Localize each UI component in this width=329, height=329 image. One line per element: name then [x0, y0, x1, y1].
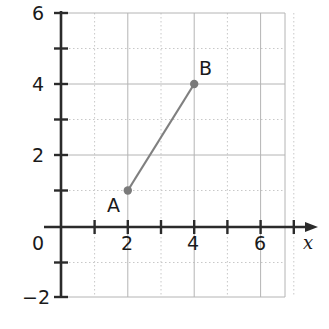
x-axis-name-label: x: [303, 234, 313, 252]
coordinate-plane-figure: 6 4 2 0 −2 2 4 6 x A B: [0, 0, 329, 329]
y-tick-label-minus-2: −2: [22, 288, 50, 307]
segment-ab: [128, 84, 194, 191]
y-tick-label-2: 2: [32, 146, 44, 165]
y-tick-label-0: 0: [32, 234, 44, 253]
x-tick-label-4: 4: [187, 234, 199, 253]
data-point-b-label: B: [199, 59, 212, 78]
y-tick-label-6: 6: [32, 4, 44, 23]
y-tick-label-4: 4: [32, 75, 44, 94]
data-point-a-marker[interactable]: [124, 186, 132, 194]
x-axis-arrow-icon: [305, 222, 318, 232]
x-tick-label-2: 2: [121, 234, 133, 253]
x-tick-label-6: 6: [254, 234, 266, 253]
data-point-b-marker[interactable]: [190, 80, 198, 88]
data-point-a-label: A: [107, 196, 120, 215]
plot-canvas: [0, 0, 329, 329]
